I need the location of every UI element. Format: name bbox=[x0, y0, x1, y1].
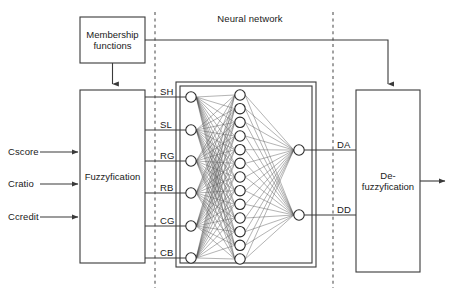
fuzzy-output-label-rb: RB bbox=[160, 182, 173, 193]
defuzzyfication-label: De- fuzzyfication bbox=[356, 90, 420, 272]
hidden-node-2 bbox=[235, 103, 245, 113]
output-node-1 bbox=[294, 145, 304, 155]
hidden-node-1 bbox=[235, 90, 245, 100]
hidden-node-3 bbox=[235, 117, 245, 127]
hidden-node-8 bbox=[235, 185, 245, 195]
network-frame-outer bbox=[176, 82, 316, 267]
fuzzy-output-label-cb: CB bbox=[160, 247, 173, 258]
input-node-2 bbox=[186, 125, 196, 135]
membership-to-defuzzyfication-line bbox=[145, 40, 388, 84]
hidden-node-4 bbox=[235, 131, 245, 141]
input-label-ccredit: Ccredit bbox=[8, 211, 39, 222]
network-output-label-da: DA bbox=[337, 139, 350, 150]
input-label-cscore: Cscore bbox=[8, 146, 39, 157]
input-node-5 bbox=[186, 221, 196, 231]
hidden-node-5 bbox=[235, 144, 245, 154]
fuzzy-output-label-sh: SH bbox=[160, 86, 173, 97]
fuzzyfication-label: Fuzzyfication bbox=[80, 90, 145, 263]
neural-network-title: Neural network bbox=[185, 13, 315, 24]
fuzzy-output-label-rg: RG bbox=[160, 150, 174, 161]
input-node-3 bbox=[186, 156, 196, 166]
neuro-fuzzy-system-diagram: Membership functions Fuzzyfication De- f… bbox=[0, 0, 455, 299]
output-node-2 bbox=[294, 210, 304, 220]
input-arrows bbox=[40, 152, 78, 217]
input-node-4 bbox=[186, 188, 196, 198]
network-output-label-dd: DD bbox=[337, 204, 351, 215]
hidden-node-11 bbox=[235, 226, 245, 236]
hidden-node-6 bbox=[235, 158, 245, 168]
hidden-node-7 bbox=[235, 172, 245, 182]
membership-functions-label: Membership functions bbox=[80, 17, 145, 63]
input-label-cratio: Cratio bbox=[8, 178, 34, 189]
hidden-node-9 bbox=[235, 199, 245, 209]
hidden-node-10 bbox=[235, 213, 245, 223]
fuzzy-output-label-cg: CG bbox=[160, 215, 174, 226]
hidden-node-12 bbox=[235, 240, 245, 250]
fuzzy-output-label-sl: SL bbox=[160, 119, 172, 130]
input-node-1 bbox=[186, 92, 196, 102]
input-node-6 bbox=[186, 253, 196, 263]
hidden-node-13 bbox=[235, 254, 245, 264]
